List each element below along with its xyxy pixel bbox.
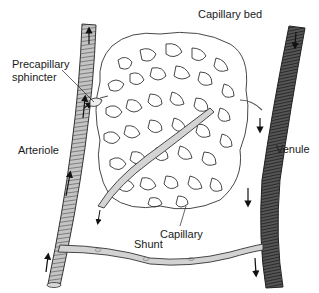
label-precapillary-line1: Precapillary: [12, 58, 69, 71]
label-arteriole: Arteriole: [18, 144, 59, 157]
capillary-bed-diagram: Capillary bed Precapillary sphincter Art…: [0, 0, 319, 293]
label-shunt: Shunt: [134, 238, 163, 251]
label-capillary: Capillary: [160, 228, 203, 241]
label-capillary-bed: Capillary bed: [198, 8, 262, 21]
venule-vessel: [261, 26, 305, 288]
capillary-tube: [98, 108, 214, 222]
label-precapillary-sphincter: Precapillary sphincter: [12, 58, 69, 84]
venule-junction: [240, 100, 262, 110]
label-venule: Venule: [276, 143, 310, 156]
precapillary-sphincter: [90, 96, 108, 106]
label-precapillary-line2: sphincter: [12, 71, 69, 84]
